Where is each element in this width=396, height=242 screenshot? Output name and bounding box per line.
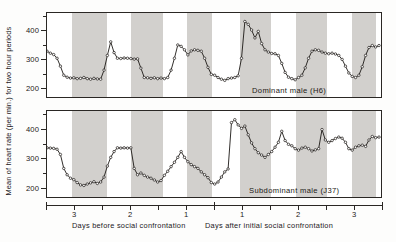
data-point <box>203 57 205 59</box>
y-tick-major <box>41 88 46 89</box>
data-point <box>348 72 350 74</box>
data-point <box>56 57 58 59</box>
y-tick-major <box>41 188 46 189</box>
data-point <box>371 44 373 46</box>
data-point <box>146 77 148 79</box>
data-point <box>49 147 51 149</box>
data-point <box>334 53 336 55</box>
data-point <box>69 77 71 79</box>
data-point <box>341 58 343 60</box>
data-point <box>120 57 122 59</box>
data-point <box>180 45 182 47</box>
data-point <box>240 127 242 129</box>
data-point <box>378 44 380 46</box>
data-point <box>200 50 202 52</box>
y-tick-label: 200 <box>15 84 39 93</box>
data-point <box>317 49 319 51</box>
data-point <box>217 181 219 183</box>
data-point <box>89 78 91 80</box>
data-point <box>374 136 376 138</box>
y-tick-minor <box>43 45 46 46</box>
data-point <box>163 174 165 176</box>
data-point <box>143 76 145 78</box>
y-tick-major <box>41 59 46 60</box>
data-point <box>163 77 165 79</box>
data-point <box>277 141 279 143</box>
data-point <box>76 77 78 79</box>
data-point <box>247 134 249 136</box>
y-tick-label: 300 <box>15 154 39 163</box>
data-point <box>210 73 212 75</box>
x-tick-label: 1 <box>235 210 249 219</box>
data-point <box>150 77 152 79</box>
data-point <box>364 54 366 56</box>
data-point <box>230 77 232 79</box>
y-tick-label: 400 <box>15 125 39 134</box>
data-point <box>59 153 61 155</box>
data-point <box>331 139 333 141</box>
data-point <box>116 147 118 149</box>
data-point <box>66 174 68 176</box>
data-point <box>156 181 158 183</box>
data-point <box>304 67 306 69</box>
data-point <box>301 74 303 76</box>
data-point <box>126 57 128 59</box>
data-point <box>93 180 95 182</box>
data-point <box>136 174 138 176</box>
data-point <box>311 150 313 152</box>
data-point <box>234 76 236 78</box>
data-point <box>197 167 199 169</box>
data-point <box>73 178 75 180</box>
y-tick-label: 400 <box>15 26 39 35</box>
x-tick-major <box>214 202 215 210</box>
data-point <box>66 76 68 78</box>
data-point <box>361 144 363 146</box>
data-point <box>217 76 219 78</box>
data-point <box>227 168 229 170</box>
data-point <box>89 182 91 184</box>
data-point <box>203 174 205 176</box>
data-point <box>321 51 323 53</box>
x-tick-minor <box>270 205 271 210</box>
data-point <box>368 46 370 48</box>
data-point <box>338 136 340 138</box>
y-tick-minor <box>43 114 46 115</box>
y-tick-minor <box>43 74 46 75</box>
figure-heart-rate-chart: Mean of heart rate (per min.) for two ho… <box>0 0 396 242</box>
data-point <box>63 74 65 76</box>
data-point <box>106 165 108 167</box>
x-tick-label: 3 <box>347 210 361 219</box>
data-point <box>314 149 316 151</box>
data-point <box>301 147 303 149</box>
data-point <box>324 52 326 54</box>
data-point <box>311 50 313 52</box>
y-axis-title: Mean of heart rate (per min.) for two ho… <box>4 27 13 196</box>
data-point <box>378 136 380 138</box>
data-point <box>116 57 118 59</box>
data-point <box>210 181 212 183</box>
data-point <box>341 137 343 139</box>
data-point <box>254 37 256 39</box>
data-point <box>358 145 360 147</box>
data-point <box>348 147 350 149</box>
data-point <box>354 146 356 148</box>
data-point <box>297 149 299 151</box>
panel-caption-dominant: Dominant male (H6) <box>252 86 326 95</box>
data-point <box>99 181 101 183</box>
data-point <box>130 57 132 59</box>
data-point <box>324 139 326 141</box>
line-series-subdominant-male <box>47 111 381 197</box>
data-point <box>317 147 319 149</box>
data-point <box>197 49 199 51</box>
data-point <box>103 176 105 178</box>
data-point <box>52 53 54 55</box>
data-point <box>173 57 175 59</box>
data-point <box>264 156 266 158</box>
data-point <box>314 49 316 51</box>
data-point <box>83 184 85 186</box>
data-point <box>143 174 145 176</box>
panel-subdominant-male <box>46 110 382 198</box>
data-point <box>291 77 293 79</box>
data-point <box>200 171 202 173</box>
data-point <box>47 50 48 52</box>
